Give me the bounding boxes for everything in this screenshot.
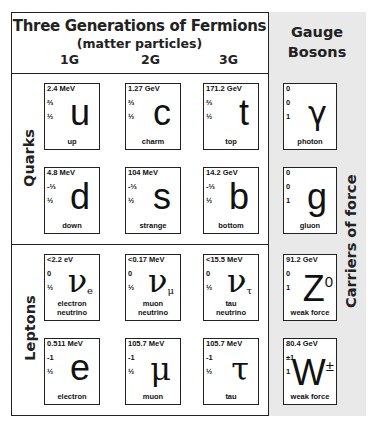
spin: ½ xyxy=(206,367,212,376)
symbol-glyph: Z xyxy=(303,268,325,309)
leptons-label: Leptons xyxy=(22,292,38,364)
particle-card-top: 171.2 GeV ⅔ ½ t top xyxy=(203,83,259,150)
fermions-title: Three Generations of Fermions xyxy=(11,17,268,35)
quarks-label: Quarks xyxy=(21,126,37,190)
symbol: u xyxy=(70,95,90,131)
particle-name: muonneutrino xyxy=(126,300,180,317)
particle-name: photon xyxy=(284,138,336,147)
particle-card-tau-neutrino: <15.5 MeV 0 ½ ντ tauneutrino xyxy=(203,254,259,321)
particle-card-gluon: 0 0 1 g gluon xyxy=(283,167,337,234)
spin: ½ xyxy=(128,283,134,292)
particle-card-w-boson: 80.4 GeV ±1 1 W± weak force xyxy=(283,338,337,405)
spin: 1 xyxy=(286,367,290,376)
spin: ½ xyxy=(47,283,53,292)
spin: ½ xyxy=(206,283,212,292)
particle-name: charm xyxy=(126,138,180,147)
particle-card-strange: 104 MeV -⅓ ½ s strange xyxy=(125,167,181,234)
spin: ½ xyxy=(47,112,53,121)
symbol-glyph: ν xyxy=(227,262,246,300)
symbol: γ xyxy=(308,95,327,131)
symbol-superscript: ± xyxy=(326,357,334,374)
particle-name: electron xyxy=(45,393,99,402)
symbol: b xyxy=(229,179,249,215)
particle-name: muon xyxy=(126,393,180,402)
spin: 1 xyxy=(286,112,290,121)
charge: ⅔ xyxy=(128,98,134,107)
symbol: τ xyxy=(231,351,249,387)
particle-card-electron-neutrino: <2.2 eV 0 ½ νe electronneutrino xyxy=(44,254,100,321)
particle-card-bottom: 14.2 GeV -⅓ ½ b bottom xyxy=(203,167,259,234)
spin: 1 xyxy=(286,283,290,292)
particle-card-muon: 105.7 MeV -1 ½ μ muon xyxy=(125,338,181,405)
particle-card-charm: 1.27 GeV ⅔ ½ c charm xyxy=(125,83,181,150)
particle-name: bottom xyxy=(204,222,258,231)
particle-name: tau xyxy=(204,393,258,402)
symbol-superscript: 0 xyxy=(325,273,333,290)
mass: 171.2 GeV xyxy=(206,84,242,93)
particle-name: weak force xyxy=(284,393,336,402)
mass: 0 xyxy=(286,84,290,93)
particle-name: electronneutrino xyxy=(45,300,99,317)
spin: ½ xyxy=(206,112,212,121)
particle-card-electron: 0.511 MeV -1 ½ e electron xyxy=(44,338,100,405)
quark-lepton-divider xyxy=(11,244,268,245)
fermions-subtitle: (matter particles) xyxy=(11,36,268,51)
charge: -⅓ xyxy=(47,182,56,191)
charge: -⅓ xyxy=(128,182,137,191)
spin: ½ xyxy=(128,112,134,121)
particle-name: weak force xyxy=(284,309,336,318)
charge: 0 xyxy=(47,269,51,278)
charge: 0 xyxy=(206,269,210,278)
symbol: d xyxy=(70,179,90,215)
generation-label-2: 2G xyxy=(141,52,160,67)
particle-name: top xyxy=(204,138,258,147)
symbol-subscript: τ xyxy=(246,285,252,296)
spin: ½ xyxy=(47,196,53,205)
particle-card-muon-neutrino: <0.17 MeV 0 ½ νμ muonneutrino xyxy=(125,254,181,321)
spin: ½ xyxy=(47,367,53,376)
gauge-title-line1: Gauge xyxy=(268,22,366,42)
symbol-glyph: W xyxy=(292,352,326,393)
particle-name: down xyxy=(45,222,99,231)
gauge-title-line2: Bosons xyxy=(268,42,366,62)
symbol: e xyxy=(70,350,90,386)
mass: 0 xyxy=(286,168,290,177)
charge: ⅔ xyxy=(47,98,53,107)
mass: 91.2 GeV xyxy=(286,255,318,264)
symbol-glyph: ν xyxy=(68,262,87,300)
particle-name: strange xyxy=(126,222,180,231)
symbol-subscript: e xyxy=(87,285,93,296)
particle-card-up: 2.4 MeV ⅔ ½ u up xyxy=(44,83,100,150)
carriers-of-force-label: Carriers of force xyxy=(343,188,359,308)
particle-name: gluon xyxy=(284,222,336,231)
header-divider xyxy=(11,73,268,74)
generation-label-3: 3G xyxy=(219,52,238,67)
name-line2: neutrino xyxy=(138,308,168,317)
symbol: μ xyxy=(150,351,171,387)
symbol: c xyxy=(153,95,171,131)
name-line2: neutrino xyxy=(216,308,246,317)
mass: 80.4 GeV xyxy=(286,339,318,348)
charge: -1 xyxy=(47,353,54,362)
spin: ½ xyxy=(128,196,134,205)
spin: 1 xyxy=(286,196,290,205)
symbol-subscript: μ xyxy=(168,285,175,296)
mass: 105.7 MeV xyxy=(128,339,164,348)
charge: -1 xyxy=(128,353,135,362)
spin: ½ xyxy=(128,367,134,376)
symbol: g xyxy=(307,179,327,215)
symbol-glyph: ν xyxy=(148,262,167,300)
mass: 105.7 MeV xyxy=(206,339,242,348)
particle-card-tau: 105.7 MeV -1 ½ τ tau xyxy=(203,338,259,405)
charge: 0 xyxy=(128,269,132,278)
generation-label-1: 1G xyxy=(60,52,79,67)
gauge-bosons-title: Gauge Bosons xyxy=(268,22,366,62)
symbol: t xyxy=(239,95,249,131)
charge: -1 xyxy=(206,353,213,362)
charge: 0 xyxy=(286,98,290,107)
particle-card-down: 4.8 MeV -⅓ ½ d down xyxy=(44,167,100,234)
charge: 0 xyxy=(286,182,290,191)
particle-card-z-boson: 91.2 GeV 0 1 Z0 weak force xyxy=(283,254,337,321)
charge: -⅓ xyxy=(206,182,215,191)
particle-name: up xyxy=(45,138,99,147)
